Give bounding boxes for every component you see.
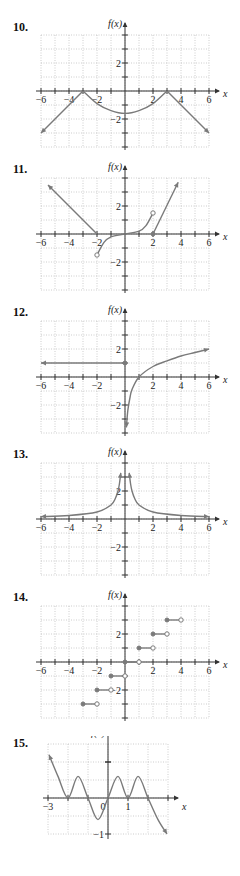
open-dot-icon (95, 253, 99, 257)
arrowhead-icon (215, 232, 220, 237)
x-tick-label: 4 (179, 522, 184, 533)
graph-14: −6−4−22462−2xf(x) (0, 571, 240, 721)
y-tick-label: −2 (110, 114, 121, 125)
function-curve (41, 473, 121, 517)
closed-dot-icon (123, 361, 127, 365)
y-tick-label: 2 (116, 58, 121, 69)
x-tick-label: −6 (36, 237, 47, 248)
y-tick-label: −1 (93, 829, 104, 840)
x-tick-label: −6 (36, 522, 47, 533)
y-tick-label: −2 (110, 542, 121, 553)
function-curve (129, 473, 209, 517)
y-tick-label: 2 (116, 344, 121, 355)
arrowhead-icon (41, 361, 46, 366)
x-tick-label: 6 (207, 380, 212, 391)
arrowhead-icon (215, 89, 220, 94)
x-tick-label: −2 (92, 522, 103, 533)
graph-15: −301−1xf(x) (0, 736, 240, 876)
x-tick-label: −4 (64, 665, 75, 676)
x-tick-label: 6 (207, 237, 212, 248)
x-tick-label: −4 (64, 237, 75, 248)
graph-13: −6−4−22462−2xf(x) (0, 428, 240, 578)
x-tick-label: 2 (151, 237, 156, 248)
closed-dot-icon (151, 632, 155, 636)
graph-12: −6−4−22462−2xf(x) (0, 286, 240, 436)
x-tick-label: 2 (151, 522, 156, 533)
arrowhead-icon (123, 308, 128, 313)
arrowhead-icon (204, 514, 209, 519)
x-tick-label: −6 (36, 94, 47, 105)
x-tick-label: −6 (36, 665, 47, 676)
arrowhead-icon (174, 796, 179, 801)
arrowhead-icon (123, 165, 128, 170)
arrowhead-icon (215, 517, 220, 522)
x-axis-label: x (222, 516, 228, 527)
y-axis-label: f(x) (108, 446, 123, 458)
y-axis-label: f(x) (108, 304, 123, 316)
graph-11: −6−4−22462−2xf(x) (0, 143, 240, 293)
x-tick-label: −2 (92, 237, 103, 248)
x-axis-label: x (222, 659, 228, 670)
x-tick-label: 1 (126, 801, 131, 812)
open-dot-icon (95, 702, 99, 706)
x-tick-label: 6 (207, 665, 212, 676)
closed-dot-icon (95, 688, 99, 692)
y-tick-label: 2 (116, 629, 121, 640)
function-curve (48, 185, 97, 234)
closed-dot-icon (81, 702, 85, 706)
y-axis-label: f(x) (91, 736, 106, 739)
y-axis-label: f(x) (108, 161, 123, 173)
arrowhead-icon (123, 22, 128, 27)
arrowhead-icon (123, 593, 128, 598)
x-tick-label: −4 (64, 94, 75, 105)
arrowhead-icon (123, 450, 128, 455)
function-curve (41, 91, 83, 133)
open-dot-icon (109, 688, 113, 692)
x-tick-label: 2 (151, 380, 156, 391)
y-axis-label: f(x) (108, 18, 123, 30)
open-dot-icon (137, 660, 141, 664)
closed-dot-icon (137, 646, 141, 650)
open-dot-icon (151, 646, 155, 650)
y-tick-label: 2 (116, 201, 121, 212)
y-axis-label: f(x) (108, 589, 123, 601)
x-tick-label: −3 (43, 801, 54, 812)
function-curve (153, 182, 178, 234)
open-dot-icon (123, 674, 127, 678)
x-axis-label: x (222, 88, 228, 99)
x-tick-label: 6 (207, 94, 212, 105)
graph-10: −6−4−22462−2xf(x) (0, 0, 240, 150)
x-tick-label: 4 (179, 380, 184, 391)
x-tick-label: 2 (151, 665, 156, 676)
function-curve (126, 349, 209, 427)
x-axis-label: x (222, 231, 228, 242)
y-tick-label: −2 (110, 400, 121, 411)
closed-dot-icon (165, 618, 169, 622)
x-tick-label: −2 (92, 665, 103, 676)
closed-dot-icon (109, 674, 113, 678)
x-tick-label: −4 (64, 522, 75, 533)
x-tick-label: 4 (179, 237, 184, 248)
open-dot-icon (151, 211, 155, 215)
y-tick-label: −2 (110, 257, 121, 268)
arrowhead-icon (41, 514, 46, 519)
arrowhead-icon (215, 375, 220, 380)
x-axis-label: x (181, 801, 187, 812)
x-tick-label: −2 (92, 380, 103, 391)
closed-dot-icon (123, 660, 127, 664)
open-dot-icon (179, 618, 183, 622)
x-tick-label: 4 (179, 665, 184, 676)
open-dot-icon (165, 632, 169, 636)
function-curve (167, 91, 209, 133)
x-tick-label: −4 (64, 380, 75, 391)
closed-dot-icon (151, 232, 155, 236)
arrowhead-icon (215, 660, 220, 665)
x-tick-label: −6 (36, 380, 47, 391)
x-tick-label: 6 (207, 522, 212, 533)
x-axis-label: x (222, 374, 228, 385)
